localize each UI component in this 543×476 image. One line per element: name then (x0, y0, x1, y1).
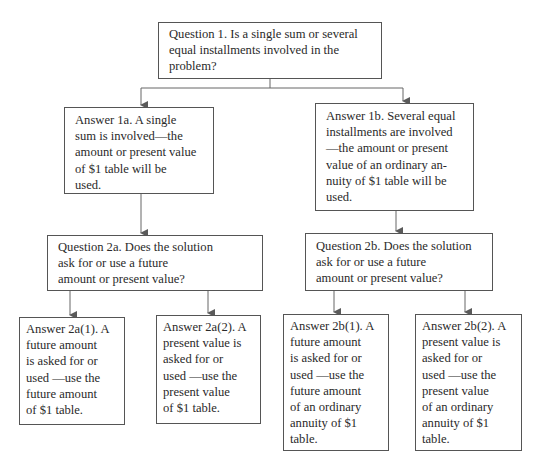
box-text-line: Question 2a. Does the solution (58, 239, 254, 255)
box-text-line: ask for or use a future (58, 255, 254, 271)
answer-2b1-box: Answer 2b(1). Afuture amountis asked for… (283, 314, 389, 451)
box-text-line: annuity of $1 (422, 415, 517, 431)
answer-2a1-box: Answer 2a(1). Afuture amountis asked for… (19, 317, 125, 425)
question-2a-box: Question 2a. Does the solutionask for or… (47, 235, 263, 291)
box-text-line: Answer 2b(1). A (290, 318, 384, 334)
box-text-line: annuity of $1 (290, 415, 384, 431)
box-text-line: of $1 table will be (75, 161, 205, 177)
answer-2a2-box: Answer 2a(2). Apresent value isasked for… (156, 315, 261, 424)
box-text-line: Answer 2a(2). A (163, 319, 256, 335)
box-text-line: Answer 1a. A single (75, 112, 205, 128)
box-text-line: table. (422, 431, 517, 447)
box-text-line: ask for or use a future (316, 254, 484, 270)
box-text-line: future amount (290, 383, 384, 399)
box-text-line: asked for or (163, 351, 256, 367)
box-text-line: of $1 table. (163, 400, 256, 416)
answer-2b2-box: Answer 2b(2). Apresent value isasked for… (415, 314, 522, 451)
box-text-line: nuity of $1 table will be (326, 173, 465, 189)
box-text-line: —the amount or present (326, 140, 465, 156)
box-text-line: Question 1. Is a single sum or several (169, 26, 373, 42)
box-text-line: present value (422, 383, 517, 399)
box-text-line: present value is (422, 334, 517, 350)
box-text-line: present value (163, 384, 256, 400)
question-1-box: Question 1. Is a single sum or severaleq… (158, 22, 382, 79)
box-text-line: is asked for or (290, 350, 384, 366)
box-text-line: Answer 2b(2). A (422, 318, 517, 334)
box-text-line: of $1 table. (26, 402, 120, 418)
box-text-line: used —use the (422, 367, 517, 383)
box-text-line: sum is involved—the (75, 128, 205, 144)
box-text-line: problem? (169, 58, 373, 74)
box-text-line: future amount (26, 337, 120, 353)
box-text-line: Answer 1b. Several equal (326, 108, 465, 124)
box-text-line: value of an ordinary an- (326, 157, 465, 173)
box-text-line: installments are involved (326, 124, 465, 140)
box-text-line: used. (326, 189, 465, 205)
box-text-line: of an ordinary (422, 399, 517, 415)
box-text-line: amount or present value (75, 144, 205, 160)
answer-1b-box: Answer 1b. Several equalinstallments are… (315, 103, 474, 211)
box-text-line: Question 2b. Does the solution (316, 238, 484, 254)
box-text-line: present value is (163, 335, 256, 351)
box-text-line: is asked for or (26, 353, 120, 369)
question-2b-box: Question 2b. Does the solutionask for or… (305, 233, 493, 291)
box-text-line: future amount (290, 334, 384, 350)
box-text-line: asked for or (422, 350, 517, 366)
box-text-line: used —use the (163, 368, 256, 384)
box-text-line: table. (290, 431, 384, 447)
box-text-line: amount or present value? (316, 270, 484, 286)
box-text-line: Answer 2a(1). A (26, 321, 120, 337)
box-text-line: amount or present value? (58, 271, 254, 287)
box-text-line: of an ordinary (290, 399, 384, 415)
box-text-line: used —use the (290, 367, 384, 383)
box-text-line: future amount (26, 386, 120, 402)
box-text-line: used. (75, 177, 205, 193)
box-text-line: equal installments involved in the (169, 42, 373, 58)
answer-1a-box: Answer 1a. A singlesum is involved—theam… (64, 107, 214, 194)
box-text-line: used —use the (26, 370, 120, 386)
